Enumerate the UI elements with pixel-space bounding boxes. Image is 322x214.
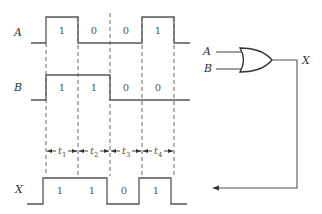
bit-a-4: 1 [155,25,161,36]
arrowhead-icon [136,149,141,153]
signal-a-label: A [13,26,22,39]
arrowhead-icon [79,149,84,153]
bit-x-1: 1 [57,185,63,196]
arrowhead-icon [111,149,116,153]
signal-x-label: X [14,183,24,196]
bit-a-3: 0 [123,25,129,36]
bit-a-1: 1 [59,25,65,36]
interval-t4-label: t4 [154,145,163,159]
arrowhead-icon [143,149,148,153]
or-gate-icon [240,48,272,72]
bit-x-4: 1 [153,185,159,196]
waveform-x [27,178,187,204]
signal-b-label: B [13,81,22,94]
bit-x-3: 0 [121,185,127,196]
interval-t1-label: t1 [58,145,67,159]
bit-a-2: 0 [91,25,97,36]
interval-t3-label: t3 [122,145,131,159]
bit-b-1: 1 [59,82,65,93]
waveform-b [31,75,190,100]
bit-b-2: 1 [91,82,97,93]
or-gate-timing-diagram: A B X 1 0 0 1 1 1 0 0 1 1 0 1 [0,0,322,214]
gate-output-wire [216,60,297,188]
interval-t2-label: t2 [90,145,99,159]
bit-x-2: 1 [89,185,95,196]
arrowhead-left-icon [212,186,219,191]
gate-input-a-label: A [202,45,211,58]
gate-input-b-label: B [203,62,212,75]
arrowhead-icon [47,149,52,153]
waveform-a [31,17,190,43]
arrowhead-icon [168,149,173,153]
arrowhead-icon [72,149,77,153]
arrowhead-icon [104,149,109,153]
gate-output-label: X [301,54,311,67]
bit-b-4: 0 [155,82,161,93]
bit-b-3: 0 [123,82,129,93]
